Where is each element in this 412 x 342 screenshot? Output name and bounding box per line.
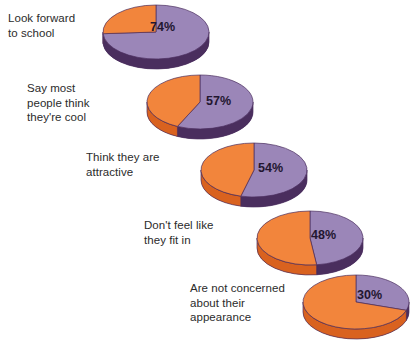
chart-label-2: Say most people think they're cool bbox=[27, 81, 137, 125]
pie-chart-4 bbox=[254, 208, 366, 278]
pie-graphic bbox=[198, 140, 310, 210]
pie-chart-1 bbox=[100, 2, 212, 72]
chart-label-1: Look forward to school bbox=[8, 11, 108, 40]
pie-graphic bbox=[144, 72, 256, 142]
chart-label-4: Don't feel like they fit in bbox=[144, 218, 259, 247]
pie-chart-2 bbox=[144, 72, 256, 142]
pie-graphic bbox=[300, 272, 412, 342]
chart-label-3: Think they are attractive bbox=[86, 150, 201, 179]
pie-graphic bbox=[100, 2, 212, 72]
pie-graphic bbox=[254, 208, 366, 278]
pie-chart-5 bbox=[300, 272, 412, 342]
pie-chart-3 bbox=[198, 140, 310, 210]
